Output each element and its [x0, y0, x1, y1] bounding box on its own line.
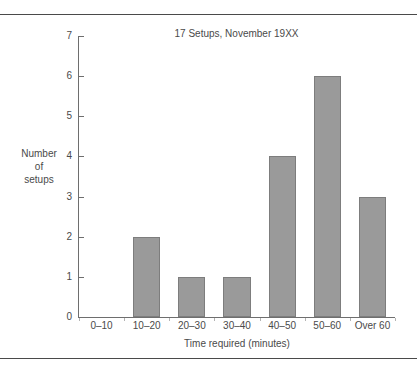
- bar-slot: [79, 36, 124, 317]
- y-axis-title-line-2: of: [8, 160, 70, 173]
- y-axis-title: Number of setups: [8, 147, 70, 186]
- x-axis-category-label: 20–30: [169, 321, 214, 331]
- x-axis-category-label: 10–20: [124, 321, 169, 331]
- x-axis-category-label: 30–40: [214, 321, 259, 331]
- bar-slot: [124, 36, 169, 317]
- bar-series: [79, 36, 395, 317]
- x-axis-category-label: 50–60: [305, 321, 350, 331]
- y-axis-tick-label: 3: [66, 192, 72, 202]
- y-axis-tick-label: 7: [66, 31, 72, 41]
- plot-area: 01234567: [78, 36, 395, 318]
- x-axis-category-label: 0–10: [79, 321, 124, 331]
- x-axis-tick-mark: [395, 318, 396, 321]
- y-axis-title-line-1: Number: [8, 147, 70, 160]
- bar[interactable]: [133, 237, 160, 317]
- y-axis-tick-label: 0: [66, 312, 72, 322]
- bar-slot: [214, 36, 259, 317]
- bar[interactable]: [269, 156, 296, 317]
- figure-page: 17 Setups, November 19XX Number of setup…: [0, 0, 417, 377]
- bar-slot: [305, 36, 350, 317]
- y-axis-tick-label: 1: [66, 272, 72, 282]
- bar-chart-figure: 17 Setups, November 19XX Number of setup…: [0, 15, 417, 358]
- bar-slot: [169, 36, 214, 317]
- y-axis-tick-label: 5: [66, 111, 72, 121]
- bar[interactable]: [359, 197, 386, 317]
- y-axis-title-line-3: setups: [8, 173, 70, 186]
- y-axis-tick-label: 2: [66, 232, 72, 242]
- bar[interactable]: [314, 76, 341, 317]
- x-axis-line: [78, 317, 395, 318]
- y-axis-tick-label: 4: [66, 151, 72, 161]
- y-axis-tick-label: 6: [66, 71, 72, 81]
- x-axis-category-label: 40–50: [260, 321, 305, 331]
- x-axis-category-label: Over 60: [350, 321, 395, 331]
- bar-slot: [260, 36, 305, 317]
- x-axis-title: Time required (minutes): [79, 339, 395, 349]
- x-axis-category-labels: 0–1010–2020–3030–4040–5050–60Over 60: [79, 321, 395, 331]
- bar-slot: [350, 36, 395, 317]
- figure-bottom-rule: [0, 358, 417, 359]
- bar[interactable]: [223, 277, 250, 317]
- bar[interactable]: [178, 277, 205, 317]
